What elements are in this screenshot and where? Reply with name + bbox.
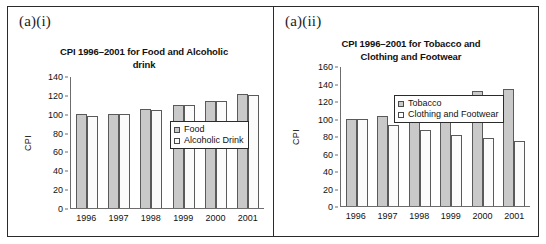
chart-title-line2: Clothing and Footwear — [311, 50, 511, 63]
chart-legend: Food Alcoholic Drink — [170, 121, 249, 149]
bar — [140, 109, 151, 208]
y-axis-tick-mark — [65, 114, 68, 115]
bar — [357, 119, 368, 206]
plot-area: CPI 020406080100120140 19961997199819992… — [20, 77, 268, 209]
x-axis-tick-label: 2000 — [199, 213, 231, 223]
y-axis-tick-label: 120 — [318, 97, 333, 107]
chart-title-line2: drink — [39, 58, 249, 71]
y-axis-tick-label: 0 — [58, 204, 63, 214]
bar-group — [76, 77, 98, 208]
y-axis-tick-mark — [335, 67, 338, 68]
x-axis-tick-label: 1996 — [340, 211, 372, 221]
bar — [205, 101, 216, 208]
bar — [248, 95, 259, 208]
bar-group — [440, 67, 462, 206]
x-axis-tick-label: 1997 — [372, 211, 404, 221]
y-axis-tick-mark — [335, 189, 338, 190]
bar-group — [108, 77, 130, 208]
y-axis-tick-label: 140 — [48, 72, 63, 82]
bar-group — [346, 67, 368, 206]
bar — [420, 130, 431, 206]
bar-group — [409, 67, 431, 206]
x-axis-tick-label: 1999 — [435, 211, 467, 221]
y-axis-tick-mark — [335, 137, 338, 138]
bar — [346, 119, 357, 206]
x-axis-tick-label: 1997 — [102, 213, 134, 223]
x-axis-tick-label: 2001 — [498, 211, 530, 221]
y-axis-tick-mark — [65, 171, 68, 172]
x-axis-tick-label: 1998 — [135, 213, 167, 223]
y-axis-tick-label: 20 — [53, 185, 63, 195]
chart-food-alcoholic-drink: CPI 1996–2001 for Food and Alcoholic dri… — [20, 37, 268, 227]
legend-item-tobacco: Tobacco — [398, 98, 499, 109]
bar-group — [377, 67, 399, 206]
x-axis-ticks: 199619971998199920002001 — [340, 211, 530, 221]
legend-item-alcoholic-drink: Alcoholic Drink — [174, 135, 244, 146]
figure-container: (a)(i) CPI 1996–2001 for Food and Alcoho… — [0, 0, 546, 244]
y-axis-tick-mark — [65, 133, 68, 134]
y-axis-tick-mark — [335, 172, 338, 173]
bar — [237, 94, 248, 208]
bar — [119, 114, 130, 209]
y-axis-tick-mark — [65, 77, 68, 78]
chart-title: CPI 1996–2001 for Food and Alcoholic dri… — [39, 37, 249, 71]
y-axis-tick-label: 160 — [318, 62, 333, 72]
y-axis-tick-label: 20 — [323, 185, 333, 195]
y-axis-ticks: 020406080100120140160 — [304, 67, 338, 207]
bar — [483, 138, 494, 206]
chart-tobacco-clothing-footwear: CPI 1996–2001 for Tobacco and Clothing a… — [288, 31, 534, 227]
x-axis-ticks: 199619971998199920002001 — [70, 213, 264, 223]
y-axis-tick-mark — [65, 152, 68, 153]
bar-groups — [341, 67, 530, 206]
x-axis-tick-label: 1998 — [403, 211, 435, 221]
y-axis-tick-mark — [335, 102, 338, 103]
y-axis-tick-label: 100 — [48, 110, 63, 120]
legend-label: Clothing and Footwear — [408, 109, 499, 120]
x-axis-tick-label: 2000 — [467, 211, 499, 221]
panel-a-ii: (a)(ii) CPI 1996–2001 for Tobacco and Cl… — [274, 7, 539, 236]
bar-group — [140, 77, 162, 208]
y-axis-tick-label: 120 — [48, 91, 63, 101]
panel-a-i: (a)(i) CPI 1996–2001 for Food and Alcoho… — [8, 7, 274, 236]
plot-axes — [340, 67, 530, 207]
x-axis-tick-label: 2001 — [232, 213, 264, 223]
figure-frame: (a)(i) CPI 1996–2001 for Food and Alcoho… — [7, 6, 539, 237]
plot-area: CPI 020406080100120140160 19961997199819… — [288, 67, 534, 207]
y-axis-tick-label: 140 — [318, 80, 333, 90]
x-axis-tick-label: 1999 — [167, 213, 199, 223]
legend-swatch-icon — [174, 127, 180, 133]
legend-label: Food — [184, 124, 205, 135]
chart-title-line1: CPI 1996–2001 for Tobacco and — [311, 37, 511, 50]
bar — [76, 114, 87, 208]
bar — [377, 116, 388, 206]
panel-label-a-i: (a)(i) — [19, 13, 51, 30]
y-axis-label: CPI — [23, 135, 33, 151]
bar — [388, 125, 399, 206]
bar — [503, 89, 514, 206]
y-axis-tick-label: 80 — [323, 132, 333, 142]
bar — [108, 114, 119, 209]
bar-group — [472, 67, 494, 206]
y-axis-tick-mark — [65, 209, 68, 210]
y-axis-tick-label: 40 — [323, 167, 333, 177]
y-axis-tick-mark — [335, 154, 338, 155]
legend-swatch-icon — [174, 138, 180, 144]
bar-group — [503, 67, 525, 206]
legend-label: Alcoholic Drink — [184, 135, 244, 146]
legend-swatch-icon — [398, 101, 404, 107]
y-axis-tick-label: 0 — [328, 202, 333, 212]
y-axis-tick-mark — [335, 84, 338, 85]
x-axis-tick-label: 1996 — [70, 213, 102, 223]
bar — [87, 116, 98, 208]
panel-label-a-ii: (a)(ii) — [285, 13, 321, 30]
y-axis-tick-label: 80 — [53, 129, 63, 139]
y-axis-tick-mark — [65, 190, 68, 191]
y-axis-tick-mark — [335, 207, 338, 208]
chart-legend: Tobacco Clothing and Footwear — [394, 95, 504, 123]
legend-label: Tobacco — [408, 98, 442, 109]
y-axis-tick-label: 40 — [53, 166, 63, 176]
bar — [409, 112, 420, 206]
chart-title: CPI 1996–2001 for Tobacco and Clothing a… — [311, 31, 511, 63]
y-axis-tick-label: 60 — [323, 150, 333, 160]
bar — [451, 135, 462, 206]
